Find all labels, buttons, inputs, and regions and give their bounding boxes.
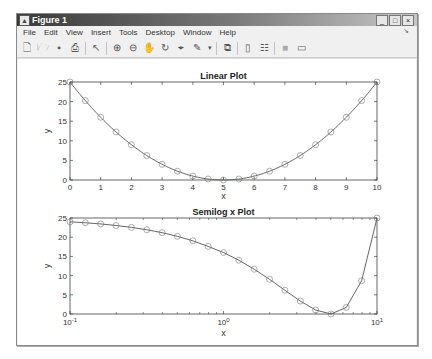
x-tick-label: 101 [371, 317, 384, 327]
menu-tools[interactable]: Tools [119, 28, 138, 37]
menu-file[interactable]: File [23, 28, 36, 37]
y-tick-label: 20 [58, 233, 67, 242]
rotate-3d-icon[interactable]: ↻ [159, 42, 171, 54]
x-axis-label: x [221, 328, 226, 338]
x-tick-label: 0 [68, 183, 73, 192]
matlab-icon: ▲ [19, 15, 30, 26]
title-bar[interactable]: ▲ Figure 1 _ □ × [17, 14, 417, 26]
y-axis-label: y [42, 263, 52, 268]
x-tick-label: 10 [373, 183, 382, 192]
x-tick-label: 7 [283, 183, 288, 192]
window-title: Figure 1 [32, 14, 67, 26]
brush-icon[interactable]: ✎ [191, 42, 203, 54]
menu-insert[interactable]: Insert [91, 28, 111, 37]
minimize-button[interactable]: _ [376, 15, 388, 26]
plots-svg[interactable]: 0510152025012345678910Linear Plotxy05101… [18, 59, 416, 345]
brush-dropdown-icon[interactable]: ▾ [207, 42, 212, 54]
menu-help[interactable]: Help [219, 28, 235, 37]
x-tick-label: 10-1 [63, 317, 78, 327]
maximize-button[interactable]: □ [389, 15, 401, 26]
axes-box [70, 218, 377, 314]
x-axis-label: x [221, 191, 226, 201]
y-tick-label: 5 [63, 156, 68, 165]
linear-plot-axes[interactable]: 0510152025012345678910Linear Plotxy [42, 71, 382, 201]
dock-arrow-icon[interactable]: ↘ [403, 27, 409, 35]
y-tick-label: 20 [58, 98, 67, 107]
open-file-icon[interactable]: 🗁 [37, 42, 49, 54]
close-button[interactable]: × [402, 15, 414, 26]
x-tick-label: 1 [98, 183, 103, 192]
menu-window[interactable]: Window [183, 28, 211, 37]
save-icon[interactable]: ▪ [53, 42, 65, 54]
toolbar-separator [216, 42, 217, 55]
x-tick-label: 4 [191, 183, 196, 192]
zoom-out-icon[interactable]: ⊖ [127, 42, 139, 54]
y-axis-label: y [42, 128, 52, 133]
x-tick-label: 9 [344, 183, 349, 192]
show-plot-tools-icon[interactable]: ▭ [295, 42, 307, 54]
edit-plot-icon[interactable]: ↖ [90, 42, 102, 54]
semilog-plot-axes[interactable]: 051015202510-1100101Semilog x Plotxy [42, 207, 384, 338]
menu-desktop[interactable]: Desktop [146, 28, 175, 37]
x-tick-label: 100 [217, 317, 230, 327]
y-tick-label: 25 [58, 78, 67, 87]
menu-view[interactable]: View [66, 28, 83, 37]
toolbar: 🗋 🗁 ▪ ⎙ ↖ ⊕ ⊖ ✋ ↻ ⌖ ✎ ▾ ⧉ ▯ ☷ ■ ▭ [17, 39, 417, 58]
y-tick-label: 10 [58, 272, 67, 281]
x-tick-label: 2 [129, 183, 134, 192]
data-cursor-icon[interactable]: ⌖ [175, 42, 187, 54]
toolbar-separator [85, 42, 86, 55]
print-icon[interactable]: ⎙ [69, 42, 81, 54]
axes-box [70, 82, 377, 180]
plot-title: Linear Plot [200, 71, 247, 81]
menu-edit[interactable]: Edit [44, 28, 58, 37]
new-figure-icon[interactable]: 🗋 [21, 42, 33, 54]
menu-bar: File Edit View Insert Tools Desktop Wind… [17, 27, 417, 38]
hide-plot-tools-icon[interactable]: ■ [279, 42, 291, 54]
zoom-in-icon[interactable]: ⊕ [111, 42, 123, 54]
colorbar-icon[interactable]: ▯ [242, 42, 254, 54]
figure-canvas: 0510152025012345678910Linear Plotxy05101… [18, 58, 416, 345]
y-tick-label: 15 [58, 252, 67, 261]
y-tick-label: 5 [63, 291, 68, 300]
y-tick-label: 25 [58, 214, 67, 223]
y-tick-label: 15 [58, 117, 67, 126]
link-plot-icon[interactable]: ⧉ [221, 42, 233, 54]
y-tick-label: 10 [58, 137, 67, 146]
toolbar-separator [106, 42, 107, 55]
x-tick-label: 8 [313, 183, 318, 192]
plot-title: Semilog x Plot [192, 207, 254, 217]
toolbar-separator [274, 42, 275, 55]
legend-icon[interactable]: ☷ [258, 42, 270, 54]
toolbar-separator [237, 42, 238, 55]
x-tick-label: 3 [160, 183, 165, 192]
figure-window: ▲ Figure 1 _ □ × File Edit View Insert T… [16, 13, 418, 346]
pan-icon[interactable]: ✋ [143, 42, 155, 54]
x-tick-label: 6 [252, 183, 257, 192]
